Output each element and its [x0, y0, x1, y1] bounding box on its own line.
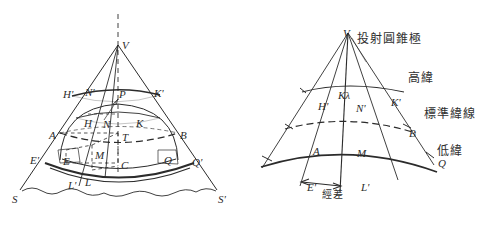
high-latitude-label: 高緯 [408, 72, 434, 84]
right-point-label-E-9: E' [307, 182, 316, 193]
construction-e-small-box [66, 145, 92, 150]
left-point-label-E-14: E' [30, 155, 39, 166]
left-point-label-K-4: K' [154, 88, 164, 99]
lower-parallel-eq [62, 159, 176, 169]
left-point-label-P-3: P [119, 89, 126, 100]
left-point-label-B-9: B [180, 130, 187, 141]
left-point-label-C-12: C [121, 160, 128, 171]
left-point-label-T-10: T [122, 132, 128, 143]
right-point-label-K-1: Kλ [338, 90, 350, 101]
standard-parallel-arc [285, 121, 416, 133]
left-point-label-M-11: M [95, 150, 104, 161]
left-point-label-L-17: L [85, 177, 91, 188]
right-panel-graphics [261, 33, 437, 192]
low-latitude-arc [261, 155, 437, 172]
left-point-label-S-20: S' [218, 194, 226, 205]
left-point-label-H-1: H' [63, 89, 73, 100]
left-point-label-N-6: N [103, 119, 110, 130]
meridian-radial-1 [262, 33, 348, 168]
right-point-label-L-10: L' [361, 182, 369, 193]
left-point-label-V-0: V [122, 40, 129, 51]
right-point-label-N-3: N' [356, 103, 366, 114]
right-point-label-Q-8: Q [438, 158, 446, 169]
high-latitude-arc [302, 86, 404, 92]
meridian-radial-3 [340, 33, 348, 192]
left-point-label-Q-16: Q' [192, 157, 202, 168]
left-point-label-A-8: A [49, 130, 56, 141]
low-latitude-label: 低緯 [437, 145, 463, 157]
standard-parallel-label: 標準緯線 [424, 108, 476, 120]
right-point-label-V-0: V [343, 28, 350, 39]
left-point-label-L-18: L' [68, 180, 76, 191]
left-point-label-H-5: H [84, 118, 92, 129]
projection-cone-pole-label: 投射圓錐極 [357, 33, 422, 45]
construction-m-to-t [92, 133, 118, 145]
standard-parallel-front-atb [60, 133, 178, 143]
right-point-label-A-6: A [313, 146, 320, 157]
right-point-label-B-5: B [409, 128, 416, 139]
torn-edge-line [22, 188, 216, 196]
longitude-difference-label: 經差 [322, 190, 344, 200]
left-point-label-S-19: S [12, 194, 18, 205]
right-point-label-K-4: K' [391, 97, 401, 108]
cone-generatrix-inner-center [105, 45, 118, 178]
left-point-label-E-13: E [63, 156, 70, 167]
right-point-label-H-2: H' [318, 101, 328, 112]
right-point-label-M-7: M [357, 148, 366, 159]
standard-parallel-back-atb [60, 127, 178, 134]
left-panel-graphics [20, 14, 217, 196]
left-point-label-Q-15: Q [164, 155, 172, 166]
left-point-label-N-2: N' [85, 87, 95, 98]
left-point-label-K-7: K [136, 118, 143, 129]
